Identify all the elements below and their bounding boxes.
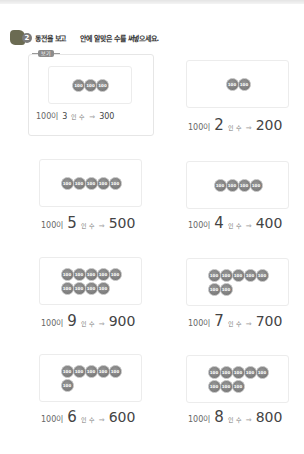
total-value: 800 [256,409,283,425]
base-value: 100이 [41,413,63,424]
coin-100-icon: 100 [73,177,86,190]
coin-100-icon: 100 [109,365,122,378]
coin-100-icon: 100 [96,79,109,92]
coin-100-icon: 100 [250,179,263,192]
base-value: 100이 [188,317,210,328]
problem-number-badge: 2 [22,33,32,43]
coin-box: 100100100100100100100100 [186,355,289,403]
coin-box: 100100100100 [186,161,289,209]
coin-100-icon: 100 [238,179,251,192]
total-value: 900 [109,313,136,329]
unit-label: 인 수 [228,221,242,230]
coin-box: 100100100 [48,66,132,104]
coin-100-icon: 100 [97,365,110,378]
base-value: 100이 [188,121,210,132]
coin-100-icon: 100 [85,177,98,190]
coin-row: 100100100100100 [61,365,121,377]
coin-100-icon: 100 [232,366,245,379]
coin-100-icon: 100 [226,179,239,192]
unit-label: 인 수 [228,415,242,424]
total-value: 500 [109,215,136,231]
coin-100-icon: 100 [85,282,98,295]
unit-label: 인 수 [81,221,95,230]
coin-100-icon: 100 [73,268,86,281]
arrow-icon: ⇒ [246,222,252,230]
coin-100-icon: 100 [61,282,74,295]
unit-label: 인 수 [81,415,95,424]
coin-100-icon: 100 [85,268,98,281]
mascot-icon: 2 [10,30,32,46]
coin-100-icon: 100 [244,366,257,379]
coin-row: 100100 [226,78,250,90]
count-value: 7 [214,312,224,330]
coin-100-icon: 100 [226,78,239,91]
coin-row: 100100100100100 [208,366,268,378]
coin-100-icon: 100 [232,380,245,393]
coin-row: 100100 [208,283,268,295]
coin-100-icon: 100 [97,177,110,190]
coin-100-icon: 100 [61,365,74,378]
arrow-icon: ⇒ [99,320,105,328]
problem-answer: 100이 9 인 수 ⇒ 900 [41,312,135,330]
example-tag-label: 보기 [38,50,54,57]
tag-line-right [54,53,60,54]
coin-100-icon: 100 [244,269,257,282]
coin-box: 100100100100100100100100100 [39,257,142,305]
coin-row: 100100100100 [61,282,121,294]
problem-answer: 100이 6 인 수 ⇒ 600 [41,408,135,426]
arrow-icon: ⇒ [246,416,252,424]
coin-100-icon: 100 [220,366,233,379]
base-value: 100이 [36,110,58,121]
count-value: 8 [214,408,224,426]
coin-100-icon: 100 [73,282,86,295]
total-value: 700 [256,313,283,329]
coin-100-icon: 100 [61,379,74,392]
coin-100-icon: 100 [208,366,221,379]
arrow-icon: ⇒ [89,113,95,121]
coin-100-icon: 100 [208,380,221,393]
count-value: 2 [214,116,224,134]
coin-row: 100100100 [208,380,268,392]
count-value: 4 [214,214,224,232]
coin-100-icon: 100 [220,269,233,282]
count-value: 3 [62,112,67,121]
coin-100-icon: 100 [85,365,98,378]
coin-box: 100100100100100100100 [186,258,289,306]
problem-header: 2 동전을 보고 안에 알맞은 수를 써넣으세요. [10,30,159,46]
coin-100-icon: 100 [97,282,110,295]
coin-row: 100100100100100 [61,177,121,189]
arrow-icon: ⇒ [246,124,252,132]
coin-100-icon: 100 [109,268,122,281]
coin-100-icon: 100 [208,283,221,296]
example-tag: 보기 [32,50,60,57]
arrow-icon: ⇒ [99,222,105,230]
coin-box: 100100 [186,60,289,108]
instruction-part2: 안에 알맞은 수를 써넣으세요. [80,33,159,43]
coin-row: 100100100100 [214,179,262,191]
unit-label: 인 수 [228,319,242,328]
count-value: 9 [67,312,77,330]
unit-label: 인 수 [81,319,95,328]
problem-answer: 100이 7 인 수 ⇒ 700 [188,312,282,330]
coin-100-icon: 100 [256,366,269,379]
problem-answer: 100이 4 인 수 ⇒ 400 [188,214,282,232]
total-value: 200 [256,117,283,133]
base-value: 100이 [188,219,210,230]
arrow-icon: ⇒ [246,320,252,328]
coin-row: 100100100 [72,79,108,91]
coin-row: 100 [61,379,121,391]
problem-answer: 100이 2 인 수 ⇒ 200 [188,116,282,134]
coin-box: 100100100100100100 [39,354,142,402]
total-value: 300 [99,112,114,121]
total-value: 600 [109,409,136,425]
coin-100-icon: 100 [220,380,233,393]
coin-100-icon: 100 [109,177,122,190]
base-value: 100이 [188,413,210,424]
instruction-part1: 동전을 보고 [35,33,66,43]
base-value: 100이 [41,219,63,230]
coin-100-icon: 100 [73,365,86,378]
coin-100-icon: 100 [220,283,233,296]
coin-100-icon: 100 [61,177,74,190]
coin-100-icon: 100 [232,269,245,282]
top-band [0,0,304,4]
